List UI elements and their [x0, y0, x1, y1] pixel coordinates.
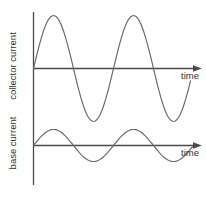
- collector-current-ylabel: collector current: [7, 32, 18, 100]
- collector-current-plot: time collector current: [7, 16, 199, 122]
- waveform-figure: time collector current time base current: [0, 0, 206, 199]
- base-current-ylabel: base current: [7, 116, 18, 169]
- base-time-label: time: [181, 147, 199, 158]
- collector-time-label: time: [181, 70, 199, 81]
- base-current-plot: time base current: [7, 116, 199, 169]
- waveform-canvas: time collector current time base current: [0, 0, 206, 199]
